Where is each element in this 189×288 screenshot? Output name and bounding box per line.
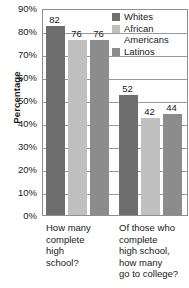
legend-swatch [112,48,120,56]
bar [90,40,109,215]
legend-label: African Americans [124,23,169,45]
legend-label: Latinos [124,46,155,57]
y-axis-tick-labels: 90%80%70%60%50%40%30%20%10%0% [0,0,39,216]
bar [46,26,65,215]
legend-item: Latinos [112,46,186,57]
y-axis-tick-label: 20% [18,165,37,175]
x-axis-category-label: How many complete high school? [46,222,115,268]
y-axis-tick-label: 90% [18,4,37,14]
y-axis-tick-label: 0% [23,211,37,221]
bar [163,114,182,215]
bar-chart: Percentage 90%80%70%60%50%40%30%20%10%0%… [0,0,189,288]
y-axis-tick-label: 70% [18,50,37,60]
legend: WhitesAfrican AmericansLatinos [112,11,186,58]
y-axis-tick-label: 60% [18,73,37,83]
bar [68,40,87,215]
legend-swatch [112,13,120,21]
legend-swatch [112,25,120,33]
legend-item: African Americans [112,23,186,45]
y-axis-tick-label: 50% [18,96,37,106]
legend-item: Whites [112,11,186,22]
y-axis-tick-label: 10% [18,188,37,198]
bar [141,118,160,215]
x-axis-category-label: Of those who complete high school, how m… [119,222,188,280]
y-axis-tick-label: 30% [18,142,37,152]
legend-label: Whites [124,11,153,22]
bar [119,95,138,215]
x-axis-category-labels: How many complete high school?Of those w… [42,222,189,288]
y-axis-tick-label: 80% [18,27,37,37]
y-axis-tick-label: 40% [18,119,37,129]
